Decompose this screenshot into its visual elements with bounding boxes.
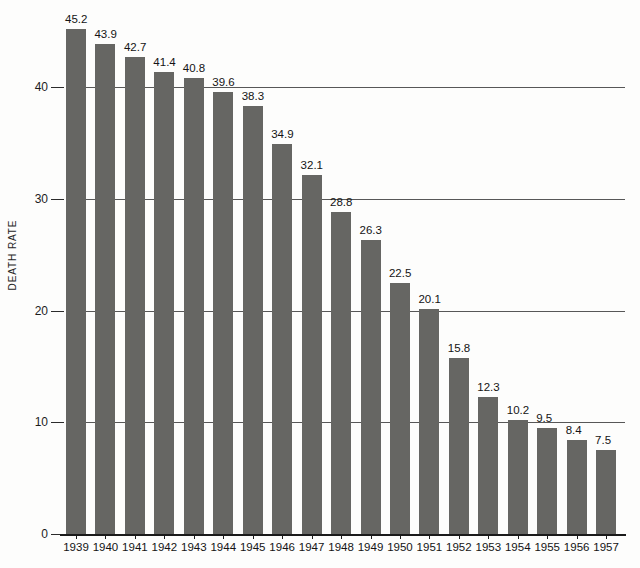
x-axis-label-1951: 1951 [414, 541, 444, 553]
bar-1943[interactable] [184, 78, 204, 534]
bar-1954[interactable] [508, 420, 528, 534]
bar-1951[interactable] [419, 309, 439, 534]
x-axis-label-1957: 1957 [591, 541, 621, 553]
bar-chart: DEATH RATE 010203040 45.243.942.741.440.… [0, 0, 640, 568]
x-axis-label-1945: 1945 [238, 541, 268, 553]
bar-value-label-1955: 9.5 [536, 412, 552, 424]
bar-1946[interactable] [272, 144, 292, 534]
bar-value-label-1957: 7.5 [595, 434, 611, 446]
bar-1948[interactable] [331, 212, 351, 534]
bar-value-label-1953: 12.3 [477, 381, 499, 393]
bar-value-label-1940: 43.9 [94, 28, 116, 40]
y-tick-label-20: 20 [22, 304, 48, 318]
x-axis-label-1947: 1947 [297, 541, 327, 553]
bar-value-label-1941: 42.7 [124, 41, 146, 53]
x-tick-1939 [76, 535, 77, 539]
bar-1953[interactable] [478, 397, 498, 534]
bar-value-label-1939: 45.2 [65, 13, 87, 25]
bar-value-label-1952: 15.8 [448, 342, 470, 354]
y-tick-label-10: 10 [22, 415, 48, 429]
x-tick-1955 [547, 535, 548, 539]
bar-1950[interactable] [390, 283, 410, 534]
bar-1957[interactable] [596, 450, 616, 534]
bar-1944[interactable] [213, 92, 233, 534]
y-axis-title-text: DEATH RATE [7, 220, 18, 291]
x-tick-1950 [400, 535, 401, 539]
x-axis-line [60, 534, 626, 536]
y-tick-label-0: 0 [22, 527, 48, 541]
bar-1939[interactable] [66, 29, 86, 534]
bar-1945[interactable] [243, 106, 263, 534]
y-tick-dash-40 [51, 87, 64, 88]
bar-value-label-1956: 8.4 [566, 424, 582, 436]
y-tick-dash-20 [51, 311, 64, 312]
y-tick-dash-10 [51, 422, 64, 423]
x-tick-1942 [164, 535, 165, 539]
x-tick-1945 [253, 535, 254, 539]
x-axis-label-1949: 1949 [356, 541, 386, 553]
x-tick-1949 [371, 535, 372, 539]
x-tick-1944 [223, 535, 224, 539]
bar-value-label-1949: 26.3 [360, 224, 382, 236]
x-tick-1947 [312, 535, 313, 539]
x-tick-1953 [488, 535, 489, 539]
bar-1940[interactable] [95, 44, 115, 534]
bar-1956[interactable] [567, 440, 587, 534]
bar-1947[interactable] [302, 175, 322, 534]
bar-value-label-1954: 10.2 [507, 404, 529, 416]
bar-value-label-1943: 40.8 [183, 62, 205, 74]
bar-value-label-1942: 41.4 [153, 56, 175, 68]
x-tick-1943 [194, 535, 195, 539]
x-axis-label-1948: 1948 [326, 541, 356, 553]
x-tick-1956 [577, 535, 578, 539]
x-axis-label-1941: 1941 [120, 541, 150, 553]
gridline-40 [66, 87, 625, 88]
x-axis-label-1954: 1954 [503, 541, 533, 553]
x-axis-label-1955: 1955 [532, 541, 562, 553]
x-tick-1954 [518, 535, 519, 539]
x-tick-1957 [606, 535, 607, 539]
x-axis-label-1953: 1953 [473, 541, 503, 553]
x-axis-label-1956: 1956 [562, 541, 592, 553]
x-tick-1946 [282, 535, 283, 539]
y-tick-dash-30 [51, 199, 64, 200]
x-axis-label-1943: 1943 [179, 541, 209, 553]
y-tick-label-30: 30 [22, 192, 48, 206]
x-axis-label-1952: 1952 [444, 541, 474, 553]
x-tick-1941 [135, 535, 136, 539]
bar-value-label-1946: 34.9 [271, 128, 293, 140]
bar-value-label-1950: 22.5 [389, 267, 411, 279]
x-axis-label-1946: 1946 [267, 541, 297, 553]
y-axis-title: DEATH RATE [0, 0, 24, 568]
bar-1955[interactable] [537, 428, 557, 534]
x-axis-label-1944: 1944 [208, 541, 238, 553]
x-axis-label-1940: 1940 [90, 541, 120, 553]
y-tick-label-40: 40 [22, 80, 48, 94]
x-tick-1940 [105, 535, 106, 539]
x-axis-label-1939: 1939 [61, 541, 91, 553]
bar-1942[interactable] [154, 72, 174, 534]
x-tick-1951 [429, 535, 430, 539]
bar-1952[interactable] [449, 358, 469, 534]
bar-value-label-1947: 32.1 [301, 159, 323, 171]
bar-1949[interactable] [361, 240, 381, 534]
x-axis-label-1942: 1942 [149, 541, 179, 553]
x-tick-1952 [459, 535, 460, 539]
bar-value-label-1945: 38.3 [242, 90, 264, 102]
bar-value-label-1951: 20.1 [418, 293, 440, 305]
bar-1941[interactable] [125, 57, 145, 534]
x-axis-label-1950: 1950 [385, 541, 415, 553]
bar-value-label-1944: 39.6 [212, 76, 234, 88]
bar-value-label-1948: 28.8 [330, 196, 352, 208]
x-tick-1948 [341, 535, 342, 539]
